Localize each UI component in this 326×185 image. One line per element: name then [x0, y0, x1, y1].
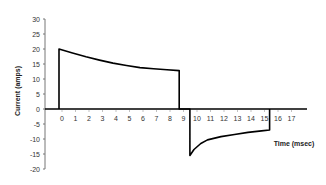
x-tick-label: 17 [288, 115, 296, 122]
y-tick-label: -5 [34, 121, 40, 128]
x-tick-label: 12 [220, 115, 228, 122]
y-tick-label: 25 [32, 31, 40, 38]
y-tick-label: -20 [30, 166, 40, 173]
y-tick-label: 30 [32, 16, 40, 23]
x-tick-label: 8 [168, 115, 172, 122]
x-tick-label: 15 [261, 115, 269, 122]
x-tick-label: 13 [234, 115, 242, 122]
current-series-line [59, 49, 270, 156]
y-axis-label: Current (amps) [14, 66, 22, 116]
y-tick-label: 0 [36, 106, 40, 113]
x-tick-label: 0 [60, 115, 64, 122]
x-tick-label: 2 [87, 115, 91, 122]
x-tick-label: 14 [247, 115, 255, 122]
y-tick-label: 15 [32, 61, 40, 68]
x-tick-label: 1 [74, 115, 78, 122]
y-tick-label: -15 [30, 151, 40, 158]
x-tick-label: 6 [141, 115, 145, 122]
current-vs-time-chart: 302520151050-5-10-15-20 0123456789101112… [0, 0, 326, 185]
x-tick-label: 9 [182, 115, 186, 122]
y-tick-label: -10 [30, 136, 40, 143]
x-tick-label: 4 [114, 115, 118, 122]
x-tick-label: 7 [155, 115, 159, 122]
x-tick-label: 3 [101, 115, 105, 122]
x-tick-label: 11 [207, 115, 214, 122]
x-tick-label: 16 [274, 115, 282, 122]
y-tick-label: 5 [36, 91, 40, 98]
y-axis: 302520151050-5-10-15-20 [30, 16, 45, 173]
x-axis-label: Time (msec) [274, 140, 315, 148]
y-tick-label: 20 [32, 46, 40, 53]
x-tick-label: 10 [193, 115, 201, 122]
x-axis: 01234567891011121314151617 [45, 109, 307, 122]
y-tick-label: 10 [32, 76, 40, 83]
x-tick-label: 5 [128, 115, 132, 122]
